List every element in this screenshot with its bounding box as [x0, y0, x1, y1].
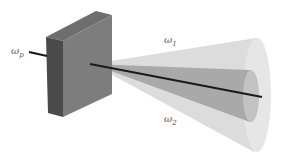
diagram-canvas: [0, 0, 284, 159]
crystal-front-face: [46, 37, 63, 117]
pump-label: ωp: [11, 46, 24, 59]
idler-label: ω2: [164, 114, 177, 127]
pump-beam: [29, 52, 47, 56]
signal-label: ω1: [164, 35, 177, 48]
